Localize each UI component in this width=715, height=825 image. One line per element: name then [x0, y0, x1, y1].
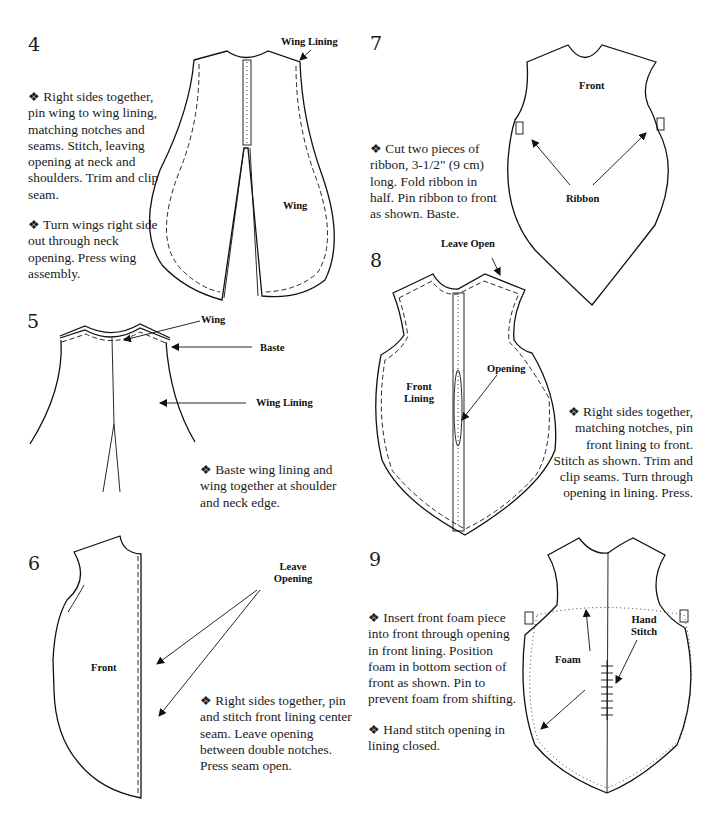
label-wing-lining: Wing Lining	[281, 36, 338, 48]
label-opening: Opening	[487, 363, 526, 375]
label-wing: Wing	[201, 314, 225, 326]
step-number: 8	[370, 249, 382, 271]
label-baste: Baste	[260, 342, 285, 354]
instruction-paragraph: ❖ Hand stitch opening in lining closed.	[368, 722, 518, 755]
instruction-paragraph: ❖ Insert front foam piece into front thr…	[368, 610, 518, 708]
label-wing: Wing	[283, 200, 307, 212]
step4-instructions: ❖ Right sides together, pin wing to wing…	[28, 89, 163, 296]
step-number: 9	[369, 548, 381, 570]
step8-instructions: ❖ Right sides together, matching notches…	[553, 404, 693, 516]
label-front-lining: Front Lining	[400, 381, 438, 405]
instruction-paragraph: ❖ Right sides together, pin wing to wing…	[28, 89, 163, 203]
label-foam: Foam	[555, 654, 581, 666]
step5-instructions: ❖ Baste wing lining and wing together at…	[200, 462, 350, 525]
instruction-paragraph: ❖ Baste wing lining and wing together at…	[200, 462, 350, 511]
instruction-paragraph: ❖ Cut two pieces of ribbon, 3-1/2" (9 cm…	[370, 141, 500, 222]
label-front: Front	[91, 662, 116, 674]
step6-instructions: ❖ Right sides together, pin and stitch f…	[200, 693, 360, 788]
step-number: 6	[28, 552, 40, 574]
step-number: 7	[370, 32, 382, 54]
step-number: 5	[27, 310, 39, 332]
step4-wing-diagram	[149, 50, 334, 300]
step-number: 4	[28, 33, 40, 55]
label-leave-open: Leave Open	[441, 238, 495, 250]
instruction-paragraph: ❖ Turn wings right side out through neck…	[28, 217, 163, 282]
step7-instructions: ❖ Cut two pieces of ribbon, 3-1/2" (9 cm…	[370, 141, 500, 236]
label-wing-lining: Wing Lining	[256, 397, 313, 409]
label-ribbon: Ribbon	[566, 193, 599, 205]
step9-foam-diagram	[523, 538, 691, 793]
label-front: Front	[579, 80, 604, 92]
instruction-paragraph: ❖ Right sides together, matching notches…	[553, 404, 693, 502]
step9-instructions: ❖ Insert front foam piece into front thr…	[368, 610, 518, 768]
label-hand-stitch: Hand Stitch	[625, 614, 663, 638]
label-leave-opening: Leave Opening	[262, 561, 324, 585]
instruction-paragraph: ❖ Right sides together, pin and stitch f…	[200, 693, 360, 774]
